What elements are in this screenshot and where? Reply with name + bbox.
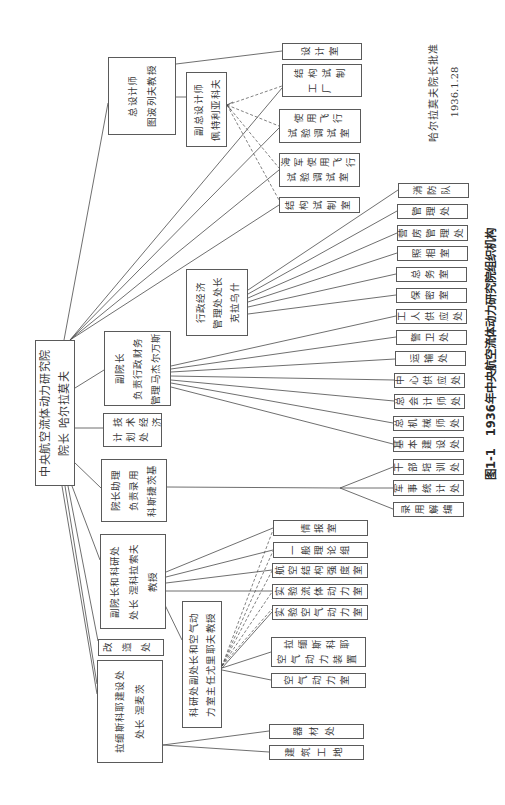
node-design-office: 设计室 <box>282 43 362 60</box>
org-chart: 中央航空流体动力研究院 院长 哈尔拉莫夫 总设计师 图波列夫教授 副总设计师 佩… <box>0 0 505 805</box>
node-vice-director-admin: 副院长 负责行政财务 管理马杰尔万斯 <box>104 331 171 406</box>
figure-caption: 图1-11936年中央航空流体动力研究院组织机构 <box>482 228 498 480</box>
research-unit: 空气动力室 <box>271 673 366 688</box>
admin-unit: 总会计师处 <box>394 394 465 409</box>
node-deputy-chief-designer: 副总设计师 佩特利亚科夫 <box>186 72 227 147</box>
admin-unit: 警卫处 <box>396 330 467 345</box>
node-label: 空气动力室 <box>284 673 354 688</box>
node-label: 技术经济 <box>113 415 161 430</box>
admin-unit: 干部培训处 <box>393 459 464 475</box>
node-label: 运输处 <box>410 351 452 366</box>
node-label: 计划处 <box>113 430 161 445</box>
node-label: 干部培训处 <box>394 460 464 475</box>
node-director-assistant: 院长助理 负责录用 科斯捷茨基 <box>101 459 167 522</box>
node-title: 副院长 <box>111 353 129 384</box>
node-label: 工人供应处 <box>397 309 467 324</box>
node-label: 营房管理处 <box>398 226 468 241</box>
research-unit: 一般理论组 <box>273 542 368 558</box>
node-prototype-office: 结构试制室 <box>279 197 360 213</box>
node-head: 院长 哈尔拉莫夫 <box>55 370 74 455</box>
node-title: 力室主任尤里耶夫教授 <box>202 613 219 717</box>
node-label: 保密室 <box>411 288 453 303</box>
admin-unit: 军事统计处 <box>393 480 464 496</box>
node-title: 管理处处长 <box>209 277 226 329</box>
approval-date: 1936.1.28 <box>449 27 461 157</box>
node-label: 器材处 <box>293 724 341 739</box>
node-label: 设计室 <box>301 44 343 59</box>
node-admin-econ-dept: 行政经济 管理处处长 克拉乌什 <box>186 269 248 336</box>
node-head: 管理马杰尔万斯 <box>147 332 165 405</box>
node-title: 科研处副处长和空气动 <box>185 613 202 717</box>
node-title: 总设计师 <box>123 75 142 117</box>
admin-unit: 运输处 <box>395 351 466 366</box>
admin-unit: 基本建设处 <box>393 437 464 452</box>
node-label: 总机械师处 <box>394 416 464 431</box>
node-vice-director-research: 副院长和科研处 处长 涅科拉索夫 教授 <box>100 534 166 629</box>
node-label: 总会计师处 <box>395 394 465 409</box>
node-title: 副院长和科研处 <box>105 545 124 618</box>
research-unit: 拉缅斯科耶 空气动力装置 <box>271 637 366 667</box>
node-title: 中央航空流体动力研究院 <box>36 349 55 477</box>
node-navy-flight-test-office: 海军使用飞行 试验调试室 <box>279 153 360 187</box>
node-reconstruction-dept: 改造处 <box>98 639 164 656</box>
admin-unit: 消防队 <box>398 183 469 198</box>
node-prototype-factory: 结构试制 工厂 <box>282 64 362 97</box>
node-title: 负责录用 <box>125 470 143 512</box>
node-label: 空气动力装置 <box>277 652 361 667</box>
node-ramenskoye-construction: 拉缅斯科耶建设处 处长 涅麦茨 <box>97 660 163 763</box>
node-label: 试验调试室 <box>281 170 359 185</box>
node-label: 试验调试室 <box>288 126 353 141</box>
node-label: 消防队 <box>413 183 455 198</box>
node-head: 教授 <box>143 571 162 592</box>
node-label: 建筑工地 <box>285 745 349 760</box>
node-label: 中心供应处 <box>395 373 465 388</box>
node-head: 图波列夫教授 <box>142 65 161 127</box>
node-label: 照相室 <box>412 246 454 261</box>
node-head: 克拉乌什 <box>226 282 243 324</box>
node-title: 副总设计师 <box>190 84 207 136</box>
node-label: 结构试制室 <box>285 198 355 213</box>
research-unit: 航空结构强度室 <box>272 563 368 578</box>
node-flight-test-office: 使用飞行 试验调试室 <box>279 109 361 143</box>
node-title: 拉缅斯科耶建设处 <box>110 670 130 753</box>
node-label: 实验流体动力室 <box>275 584 366 599</box>
research-unit: 实验空气动力室 <box>272 605 368 620</box>
node-label: 录用解编 <box>401 502 457 517</box>
node-label: 使用飞行 <box>288 111 353 126</box>
node-research-deputy: 科研处副处长和空气动 力室主任尤里耶夫教授 <box>182 601 222 728</box>
approval-text: 哈尔拉莫夫院长批准 <box>428 27 440 157</box>
figure-title: 1936年中央航空流体动力研究院组织机构 <box>484 228 498 436</box>
node-label: 情报室 <box>301 521 340 536</box>
node-title: 负责行政财务 <box>129 337 147 399</box>
node-label: 航空结构强度室 <box>275 563 366 578</box>
admin-unit: 营房管理处 <box>397 225 468 241</box>
node-label: 管理处 <box>412 204 454 219</box>
node-label: 军事统计处 <box>394 481 464 496</box>
admin-unit: 照相室 <box>397 246 468 261</box>
admin-unit: 总机械师处 <box>393 416 464 431</box>
construction-unit: 建筑工地 <box>269 745 364 760</box>
admin-unit: 总务室 <box>396 267 467 282</box>
node-label: 工厂 <box>294 81 350 96</box>
node-label: 改造处 <box>103 640 160 655</box>
node-label: 警卫处 <box>411 330 453 345</box>
node-title: 院长助理 <box>107 470 125 512</box>
node-label: 拉缅斯科耶 <box>277 637 361 652</box>
node-label: 实验空气动力室 <box>275 605 366 620</box>
node-head: 处长 涅科拉索夫 <box>124 543 143 619</box>
admin-unit: 录用解编 <box>393 502 464 517</box>
admin-unit: 工人供应处 <box>396 309 467 324</box>
node-label: 基本建设处 <box>394 437 464 452</box>
node-label: 海军使用飞行 <box>281 155 359 170</box>
node-head: 科斯捷茨基 <box>143 465 161 517</box>
node-label: 总务室 <box>411 267 453 282</box>
construction-unit: 器材处 <box>269 724 364 739</box>
node-head: 处长 涅麦茨 <box>130 684 150 739</box>
node-title: 行政经济 <box>192 282 209 324</box>
admin-unit: 管理处 <box>397 204 468 219</box>
node-chief-designer: 总设计师 图波列夫教授 <box>108 57 176 135</box>
admin-unit: 保密室 <box>396 288 467 303</box>
figure-number: 图1-1 <box>484 448 498 480</box>
node-label: 结构试制 <box>294 66 350 81</box>
node-label: 一般理论组 <box>288 543 353 558</box>
